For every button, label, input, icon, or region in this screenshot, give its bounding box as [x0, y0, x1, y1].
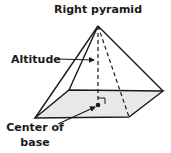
center-of-base-label-line1: Center of	[6, 121, 64, 134]
altitude-label: Altitude	[11, 53, 61, 66]
base-center-point	[96, 103, 101, 108]
altitude-pointer-arrow	[57, 59, 94, 60]
center-of-base-label-line2: base	[20, 136, 49, 149]
right-pyramid-diagram: Right pyramid Altitude Center of base	[0, 0, 171, 153]
edge-apex-back-left	[69, 26, 98, 90]
edge-apex-back-right	[98, 26, 163, 91]
diagram-title: Right pyramid	[54, 3, 142, 16]
